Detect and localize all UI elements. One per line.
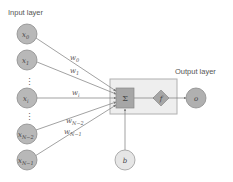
output-symbol: o (194, 95, 198, 103)
ellipsis-lower: ⋮ (25, 112, 34, 122)
input-node-i: xi (17, 88, 37, 108)
input-node-n-minus-1: xN−1 (17, 150, 37, 170)
weight-label-n-minus-2: wN−2 (66, 117, 84, 126)
weight-label-1: w1 (70, 67, 79, 76)
connection-0 (36, 38, 116, 91)
weight-label-n-minus-1: wN−1 (64, 128, 82, 137)
summation-node: Σ (116, 88, 134, 108)
connection-n2 (36, 102, 116, 130)
output-layer-label: Output layer (175, 67, 216, 76)
weight-label-i: wi (72, 89, 80, 98)
input-node-n-minus-2: xN−2 (17, 124, 37, 144)
ellipsis-upper: ⋮ (25, 77, 34, 87)
bias-node: b (115, 150, 135, 170)
bias-symbol: b (123, 157, 128, 165)
sigma-symbol: Σ (122, 94, 128, 103)
output-node: o (186, 88, 206, 108)
weight-label-0: w0 (70, 54, 80, 63)
perceptron-diagram: Input layer Output layer x0 x1 ⋮ xi ⋮ xN… (0, 0, 233, 182)
input-node-1: x1 (17, 50, 37, 70)
input-layer-label: Input layer (8, 8, 44, 17)
input-node-0: x0 (17, 24, 37, 44)
